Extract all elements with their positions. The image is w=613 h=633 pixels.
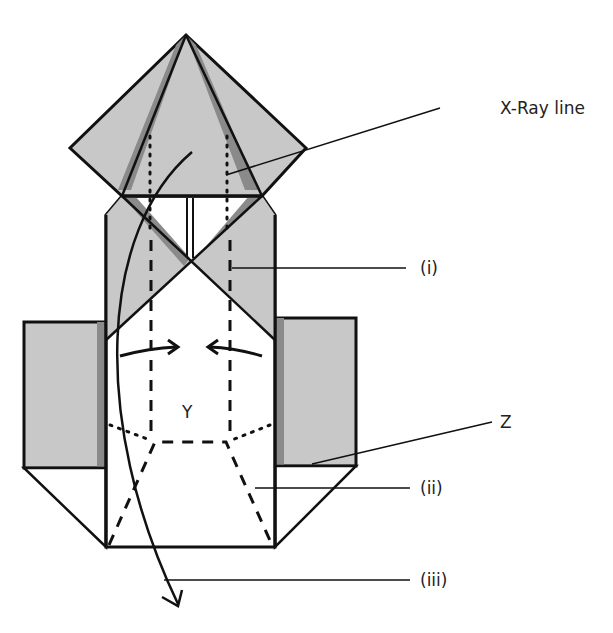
label-ii: (ii) [420, 478, 443, 498]
label-z: Z [500, 412, 512, 432]
label-xray-line: X-Ray line [500, 98, 585, 118]
top-kite [70, 35, 306, 196]
label-y: Y [181, 402, 193, 422]
label-iii: (iii) [420, 570, 447, 590]
bottom-left-triangle [24, 468, 106, 547]
origami-diagram: X-Ray line (i) Z (ii) (iii) Y [0, 0, 613, 633]
right-side-flap [275, 318, 356, 466]
label-i: (i) [420, 258, 438, 278]
left-side-flap [24, 322, 106, 468]
bottom-right-triangle [275, 466, 356, 547]
